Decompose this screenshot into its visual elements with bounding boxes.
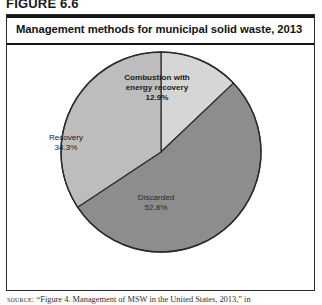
source-citation-text: “Figure 4. Management of MSW in the Unit… [37, 295, 251, 304]
chart-title: Management methods for municipal solid w… [16, 23, 302, 35]
source-note: source: “Figure 4. Management of MSW in … [7, 295, 319, 305]
figure-number-label: FIGURE 6.6 [6, 0, 79, 10]
pie-label-combustion-line2: energy recovery [126, 83, 189, 92]
source-keyword: source: [7, 295, 34, 304]
pie-label-discarded-line1: Discarded [138, 193, 174, 202]
pie-label-recovery: Recovery 34.3% [29, 133, 103, 153]
pie-value-discarded: 52.8% [115, 203, 197, 213]
pie-value-combustion: 12.9% [105, 93, 209, 103]
pie-label-discarded: Discarded 52.8% [115, 193, 197, 213]
pie-value-recovery: 34.3% [29, 143, 103, 153]
pie-label-combustion: Combustion with energy recovery 12.9% [105, 73, 209, 104]
figure-title-bar: Management methods for municipal solid w… [7, 15, 314, 45]
figure-box: Management methods for municipal solid w… [6, 14, 315, 291]
pie-chart-plot-area: Combustion with energy recovery 12.9% Re… [7, 45, 314, 290]
pie-label-combustion-line1: Combustion with [124, 73, 190, 82]
pie-label-recovery-line1: Recovery [49, 133, 83, 142]
